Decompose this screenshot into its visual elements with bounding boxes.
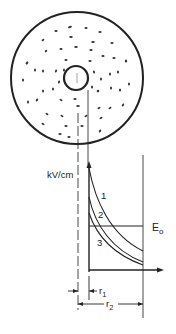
y-axis-label: kV/cm [47,169,73,180]
r1-right-arrowhead-icon [89,289,94,293]
r2-label: r2 [106,298,113,312]
curve-1-label: 1 [101,190,106,201]
r2-right-arrowhead-icon [138,302,143,306]
curve-2-label: 2 [98,209,103,220]
field-distribution-diagram: kV/cm 1 2 3 Eo r1 r2 [0,0,176,334]
r2-left-arrowhead-icon [78,302,83,306]
space-charge-particles [22,25,130,138]
curve-3-label: 3 [97,237,102,248]
y-axis-arrow-icon [87,161,92,168]
x-axis-arrow-icon [157,268,164,273]
threshold-label: Eo [152,221,164,236]
r1-left-arrowhead-icon [73,289,78,293]
r1-label: r1 [99,285,106,299]
inner-conductor [64,66,88,90]
